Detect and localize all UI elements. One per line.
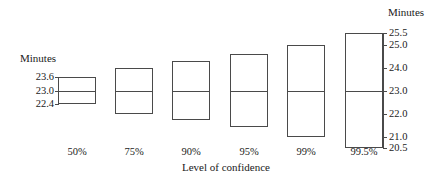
ci-center-line bbox=[58, 91, 96, 92]
ci-center-line bbox=[115, 91, 153, 92]
ci-center-line bbox=[345, 91, 383, 92]
left-y-tick-label: 22.4 bbox=[14, 99, 54, 110]
right-y-tick-label: 21.0 bbox=[389, 132, 407, 143]
x-tick-label: 99.5% bbox=[334, 147, 394, 158]
right-y-tick-mark bbox=[383, 45, 387, 46]
ci-center-line bbox=[172, 91, 210, 92]
right-y-tick-mark bbox=[383, 137, 387, 138]
right-y-axis-title: Minutes bbox=[388, 7, 424, 18]
x-tick-label: 50% bbox=[47, 147, 107, 158]
right-y-tick-label: 25.0 bbox=[389, 40, 407, 51]
ci-center-line bbox=[230, 91, 268, 92]
right-y-tick-mark bbox=[383, 33, 387, 34]
left-y-tick-label: 23.6 bbox=[14, 72, 54, 83]
confidence-interval-chart: Minutes Minutes 23.623.022.4 25.525.024.… bbox=[0, 0, 442, 183]
left-y-axis-title: Minutes bbox=[20, 53, 56, 64]
left-y-tick-label: 23.0 bbox=[14, 86, 54, 97]
x-tick-label: 90% bbox=[161, 147, 221, 158]
x-tick-label: 99% bbox=[276, 147, 336, 158]
right-y-tick-label: 23.0 bbox=[389, 86, 407, 97]
right-y-tick-label: 22.0 bbox=[389, 109, 407, 120]
x-axis-title: Level of confidence bbox=[146, 162, 306, 173]
right-y-tick-label: 25.5 bbox=[389, 28, 407, 39]
x-tick-label: 95% bbox=[219, 147, 279, 158]
x-tick-label: 75% bbox=[104, 147, 164, 158]
ci-center-line bbox=[287, 91, 325, 92]
right-y-tick-mark bbox=[383, 114, 387, 115]
right-y-tick-label: 24.0 bbox=[389, 63, 407, 74]
left-y-tick-mark bbox=[55, 104, 59, 105]
right-y-tick-mark bbox=[383, 68, 387, 69]
right-y-tick-mark bbox=[383, 91, 387, 92]
